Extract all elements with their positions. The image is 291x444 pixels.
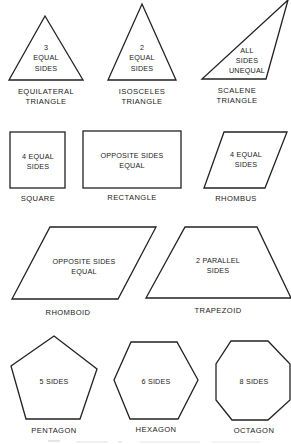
shape-label: TRAPEZOID	[194, 306, 241, 315]
rectangle: OPPOSITE SIDES EQUAL RECTANGLE	[83, 131, 181, 202]
inner-text: SIDES	[131, 64, 154, 73]
inner-text: OPPOSITE SIDES	[100, 151, 163, 160]
scalene-triangle: ALL SIDES UNEQUAL SCALENE TRIANGLE	[202, 0, 288, 105]
isosceles-triangle: 2 EQUAL SIDES ISOSCELES TRIANGLE	[108, 4, 176, 106]
shape-label: OCTAGON	[234, 426, 275, 435]
inner-text: 8 SIDES	[240, 377, 269, 386]
shape-label: SCALENE	[218, 86, 256, 95]
inner-text: 3	[44, 43, 48, 52]
shape-label: RECTANGLE	[107, 193, 156, 202]
shape-label: RHOMBOID	[46, 308, 91, 317]
inner-text: SIDES	[35, 64, 58, 73]
inner-text: 4 EQUAL	[230, 150, 262, 159]
faint-caption	[48, 441, 260, 442]
pentagon: 5 SIDES PENTAGON	[11, 336, 97, 435]
rhomboid: OPPOSITE SIDES EQUAL RHOMBOID	[12, 227, 156, 317]
trapezoid: 2 PARALLEL SIDES TRAPEZOID	[146, 227, 291, 315]
inner-text: 5 SIDES	[40, 377, 69, 386]
inner-text: SIDES	[236, 56, 259, 65]
shape-label: TRIANGLE	[121, 97, 162, 106]
shape-label: TRIANGLE	[25, 97, 66, 106]
inner-text: UNEQUAL	[229, 66, 265, 75]
geometric-shapes-diagram: 3 EQUAL SIDES EQUILATERAL TRIANGLE 2 EQU…	[0, 0, 291, 444]
shape-label: PENTAGON	[31, 426, 76, 435]
inner-text: EQUAL	[71, 267, 96, 276]
rhombus: 4 EQUAL SIDES RHOMBUS	[204, 132, 287, 203]
inner-text: ALL	[240, 46, 253, 55]
inner-text: SIDES	[235, 160, 258, 169]
inner-text: 2 PARALLEL	[196, 256, 240, 265]
inner-text: SIDES	[27, 162, 50, 171]
inner-text: 6 SIDES	[142, 377, 171, 386]
shape-label: SQUARE	[21, 194, 55, 203]
shape-label: TRIANGLE	[216, 96, 257, 105]
square: 4 EQUAL SIDES SQUARE	[10, 132, 65, 203]
inner-text: SIDES	[207, 266, 230, 275]
shape-label: RHOMBUS	[215, 194, 257, 203]
octagon: 8 SIDES OCTAGON	[216, 341, 290, 435]
inner-text: EQUAL	[129, 53, 154, 62]
equilateral-triangle: 3 EQUAL SIDES EQUILATERAL TRIANGLE	[9, 16, 83, 106]
inner-text: 2	[140, 43, 144, 52]
inner-text: OPPOSITE SIDES	[52, 257, 115, 266]
inner-text: 4 EQUAL	[22, 152, 54, 161]
inner-text: EQUAL	[33, 53, 58, 62]
shape-label: ISOSCELES	[119, 87, 166, 96]
shape-label: EQUILATERAL	[18, 87, 74, 96]
shape-label: HEXAGON	[136, 425, 177, 434]
inner-text: EQUAL	[119, 161, 144, 170]
hexagon: 6 SIDES HEXAGON	[114, 342, 198, 434]
